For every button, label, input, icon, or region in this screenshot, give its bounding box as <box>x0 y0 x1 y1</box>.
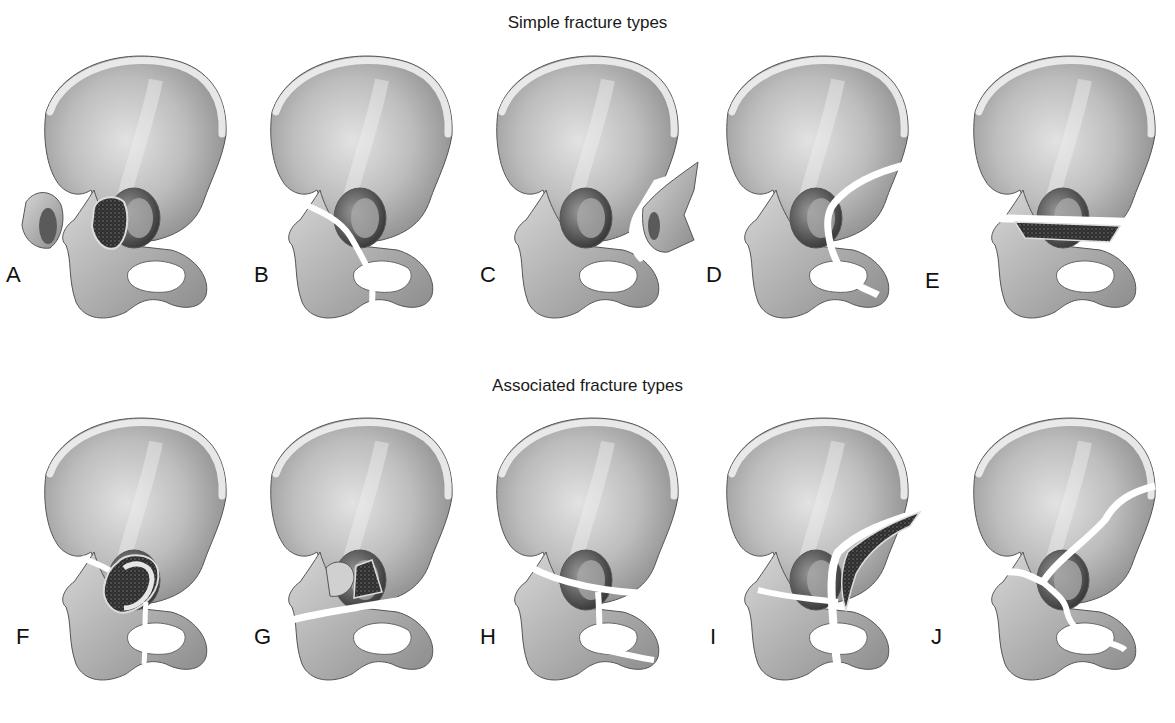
panel-a: A <box>6 40 238 330</box>
panel-g: G <box>232 402 464 692</box>
pelvis-illustration-f <box>6 402 238 692</box>
panel-label-h: H <box>480 624 496 650</box>
pelvis-illustration-j <box>935 402 1167 692</box>
panel-label-d: D <box>706 262 722 288</box>
panel-c: C <box>458 40 690 330</box>
pelvis-illustration-e <box>935 40 1167 330</box>
panel-label-i: I <box>710 624 716 650</box>
panel-label-e: E <box>925 268 940 294</box>
panel-label-g: G <box>254 624 271 650</box>
panel-label-a: A <box>6 262 21 288</box>
panel-label-j: J <box>931 624 942 650</box>
panel-label-c: C <box>480 262 496 288</box>
panel-b: B <box>232 40 464 330</box>
panel-label-f: F <box>16 624 29 650</box>
panel-label-b: B <box>254 262 269 288</box>
pelvis-illustration-d <box>688 40 920 330</box>
pelvis-illustration-i <box>688 402 920 692</box>
row-title-simple: Simple fracture types <box>0 13 1175 33</box>
panel-i: I <box>688 402 920 692</box>
row-title-associated: Associated fracture types <box>0 376 1175 396</box>
panel-h: H <box>458 402 690 692</box>
panel-j: J <box>935 402 1167 692</box>
panel-e: E <box>935 40 1167 330</box>
pelvis-illustration-a <box>6 40 238 330</box>
panel-f: F <box>6 402 238 692</box>
panel-d: D <box>688 40 920 330</box>
